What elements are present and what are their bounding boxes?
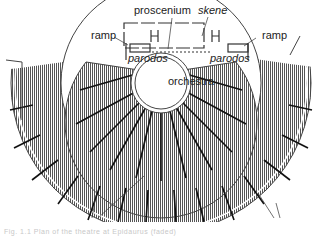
label-orchestra: orchestra bbox=[168, 76, 214, 87]
label-parodos-left: parodos bbox=[128, 53, 168, 64]
label-ramp-left: ramp bbox=[91, 30, 116, 41]
label-proscenium: proscenium bbox=[134, 5, 191, 16]
label-ramp-right: ramp bbox=[262, 30, 287, 41]
label-skene: skene bbox=[198, 5, 227, 16]
label-parodos-right: parodos bbox=[210, 53, 250, 64]
figure-caption: Fig. 1.1 Plan of the theatre at Epidauru… bbox=[4, 228, 176, 235]
